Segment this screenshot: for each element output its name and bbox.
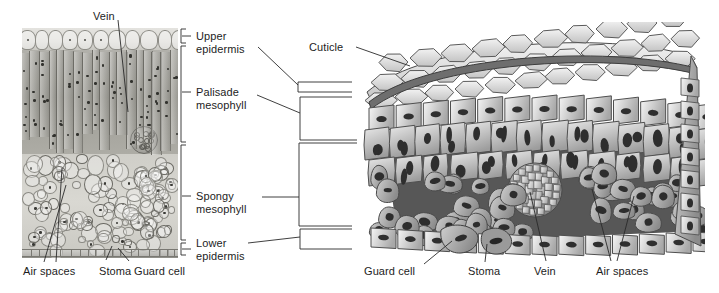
label-air-spaces-micrograph: Air spaces (23, 265, 75, 278)
chloroplast (42, 95, 45, 98)
chloroplast (155, 100, 158, 103)
chloroplast (131, 98, 134, 101)
block-vein-cell (534, 200, 542, 208)
nucleus (112, 159, 115, 162)
chloroplast (88, 90, 91, 93)
chloroplast (101, 119, 104, 122)
block-palisade-vacuole (397, 140, 404, 151)
micrograph-spongy-cell (123, 227, 134, 236)
micrograph-spongy-cell (93, 204, 107, 217)
micrograph-upper-epidermis-cell (48, 30, 63, 50)
nucleus (170, 184, 173, 187)
chloroplast (146, 116, 149, 119)
micrograph-spongy-cell (54, 171, 64, 182)
chloroplast (119, 121, 122, 124)
block-vein-cell (523, 207, 530, 214)
block-epidermis-top-cell (641, 34, 670, 51)
chloroplast (94, 114, 97, 117)
chloroplast (167, 90, 170, 93)
chloroplast (94, 124, 97, 127)
block-epidermis-top-cell (455, 81, 484, 97)
nucleus (49, 186, 52, 189)
chloroplast (95, 71, 98, 74)
micrograph-upper-epidermis-cell (171, 30, 178, 50)
chloroplast (112, 81, 115, 84)
chloroplast (69, 73, 72, 76)
bracket-block-palisade (300, 97, 357, 140)
bracket-block-lower-epidermis (300, 229, 352, 249)
label-cuticle: Cuticle (309, 41, 343, 54)
micrograph-upper-epidermis-cell (158, 30, 172, 50)
block-side-vacuole (687, 106, 693, 115)
chloroplast (111, 85, 114, 88)
block-epidermis-top-cell (485, 77, 515, 93)
block-vein-cell (544, 204, 551, 211)
chloroplast (87, 101, 90, 104)
chloroplast (129, 63, 132, 66)
nucleus (33, 236, 36, 239)
chloroplast (41, 60, 44, 63)
micrograph-upper-epidermis-cell (22, 30, 36, 50)
micrograph-spongy-cell (84, 174, 102, 195)
chloroplast (112, 97, 115, 100)
nucleus (163, 212, 166, 215)
nucleus (128, 182, 131, 185)
nucleus (27, 39, 29, 41)
micrograph-lower-epidermis-cell (174, 249, 178, 257)
chloroplast (154, 75, 157, 78)
block-epidermis-vacuole (376, 116, 386, 122)
block-palisade-cell (542, 120, 569, 153)
micrograph-spongy-cell (160, 169, 168, 175)
micrograph-upper-epidermis-cell (77, 30, 94, 50)
micrograph-spongy-cell (28, 232, 40, 243)
chloroplast (148, 95, 151, 98)
chloroplast (35, 62, 38, 65)
chloroplast (59, 123, 62, 126)
block-palisade-cell (364, 127, 390, 160)
bracket-block-spongy (299, 143, 357, 226)
label-palisade-line2: mesophyll (196, 99, 246, 112)
chloroplast (78, 71, 81, 74)
block-diagram-svg (355, 22, 705, 260)
block-epidermis-top-cell (658, 22, 688, 26)
block-epidermis-top-cell (545, 68, 575, 84)
label-spongy-line1: Spongy (196, 190, 234, 203)
block-epidermis-top-cell (379, 54, 408, 72)
label-vein-block: Vein (534, 265, 556, 278)
block-epidermis-top-cell (671, 30, 700, 47)
block-side-vacuole (687, 198, 693, 207)
chloroplast (130, 80, 133, 83)
micrograph-upper-epidermis-cell (35, 30, 49, 50)
micrograph-spongy-cell (112, 235, 120, 243)
nucleus (99, 209, 102, 212)
chloroplast (52, 142, 55, 145)
chloroplast (33, 119, 36, 122)
chloroplast (32, 91, 35, 94)
leaf-block-diagram (355, 22, 705, 260)
micrograph-spongy-cell (98, 233, 109, 242)
micrograph-spongy-cell (111, 217, 122, 229)
block-epidermis-top-cell (575, 65, 605, 81)
chloroplast (76, 81, 79, 84)
connector-lower-epidermis (248, 237, 300, 243)
chloroplast (129, 55, 132, 58)
bracket-spongy (181, 145, 186, 240)
micrograph-upper-epidermis-cell (140, 30, 159, 50)
block-vein-cell (533, 165, 540, 172)
block-vein-cell (530, 209, 537, 216)
chloroplast (103, 82, 106, 85)
chloroplast (25, 130, 28, 133)
micrograph-spongy-cell (76, 154, 88, 163)
block-palisade-cell (567, 120, 593, 153)
block-epidermis-top-cell (515, 72, 548, 88)
nucleus (69, 39, 71, 41)
block-epidermis-top-cell (425, 85, 454, 101)
leaf-micrograph (22, 28, 178, 258)
chloroplast (23, 124, 26, 127)
chloroplast (102, 64, 105, 67)
chloroplast (96, 58, 99, 61)
block-vein-cell (526, 165, 533, 172)
micrograph-palisade-cell (170, 50, 178, 144)
label-upper-epidermis-line1: Upper (196, 30, 226, 43)
nucleus (45, 207, 48, 210)
